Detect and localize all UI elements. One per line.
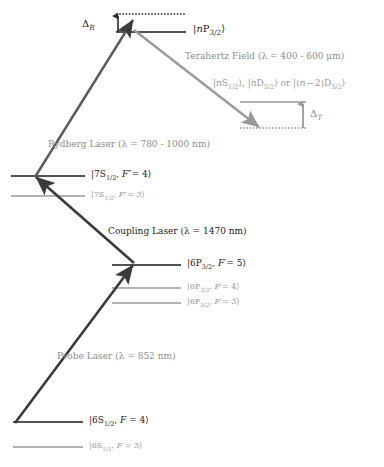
level-label-6P32-F3: |6P3/2, F′= 3⟩ — [187, 298, 239, 308]
transition-label-probe: Probe Laser (λ = 852 nm) — [57, 352, 176, 361]
level-label-7S12-F3: |7S1/2, F″= 3⟩ — [91, 191, 145, 201]
probe-laser-arrow — [15, 265, 133, 423]
rydberg-laser-arrow — [35, 20, 133, 177]
level-label-6P32-F4: |6P3/2, F′= 4⟩ — [187, 283, 239, 293]
level-label-6S12-F4: |6S1/2, F = 4⟩ — [89, 416, 149, 427]
transition-label-rydberg: Rydberg Laser (λ = 780 - 1000 nm) — [48, 140, 210, 149]
detuning-label-delta-r: ΔR — [82, 19, 95, 31]
level-label-thz-target: |nS1/2⟩, |nD5/2⟩ or |(n − 2)D5/2⟩ — [213, 79, 345, 90]
level-label-nP32: |nP3/2⟩ — [193, 24, 225, 36]
transition-label-coupling: Coupling Laser (λ = 1470 nm) — [108, 227, 247, 236]
detuning-label-delta-t: ΔT — [310, 109, 322, 121]
level-label-7S12-F4: |7S1/2, F″= 4⟩ — [91, 170, 151, 181]
level-label-6P32-F5: |6P3/2, F′= 5⟩ — [187, 259, 246, 270]
transition-label-terahertz: Terahertz Field (λ = 400 - 600 μm) — [185, 52, 344, 61]
level-label-6S12-F3: |6S1/2, F = 3⟩ — [89, 442, 142, 452]
energy-level-diagram: |nP3/2⟩ |nS1/2⟩, |nD5/2⟩ or |(n − 2)D5/2… — [0, 0, 384, 467]
